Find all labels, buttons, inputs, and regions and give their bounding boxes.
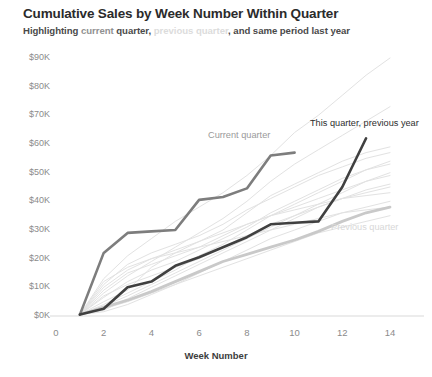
x-axis-title: Week Number <box>0 350 432 361</box>
x-axis-tick-label: 6 <box>184 327 214 338</box>
x-axis-tick-label: 0 <box>41 327 71 338</box>
y-axis-tick-label: $40K <box>8 195 50 205</box>
y-axis-tick-label: $70K <box>8 109 50 119</box>
y-axis-tick-label: $50K <box>8 167 50 177</box>
annotation-previous-quarter: Previous quarter <box>331 222 398 232</box>
series-line[interactable] <box>80 138 366 314</box>
y-axis-tick-label: $30K <box>8 224 50 234</box>
x-axis-tick-label: 2 <box>89 327 119 338</box>
annotation-this-quarter-previous-year: This quarter, previous year <box>310 118 419 128</box>
y-axis-tick-label: $60K <box>8 138 50 148</box>
x-axis-tick-label: 10 <box>280 327 310 338</box>
y-axis-tick-label: $0K <box>8 310 50 320</box>
chart-container: Cumulative Sales by Week Number Within Q… <box>0 0 432 377</box>
x-axis-tick-label: 14 <box>375 327 405 338</box>
x-axis-tick-label: 12 <box>327 327 357 338</box>
annotation-current-quarter: Current quarter <box>208 130 270 140</box>
series-line[interactable] <box>80 184 390 315</box>
x-axis-tick-label: 8 <box>232 327 262 338</box>
y-axis-tick-label: $20K <box>8 253 50 263</box>
x-axis-tick-label: 4 <box>136 327 166 338</box>
y-axis-tick-label: $10K <box>8 281 50 291</box>
y-axis-tick-label: $90K <box>8 52 50 62</box>
chart-plot-area <box>0 0 432 377</box>
series-line[interactable] <box>80 187 390 315</box>
y-axis-tick-label: $80K <box>8 81 50 91</box>
